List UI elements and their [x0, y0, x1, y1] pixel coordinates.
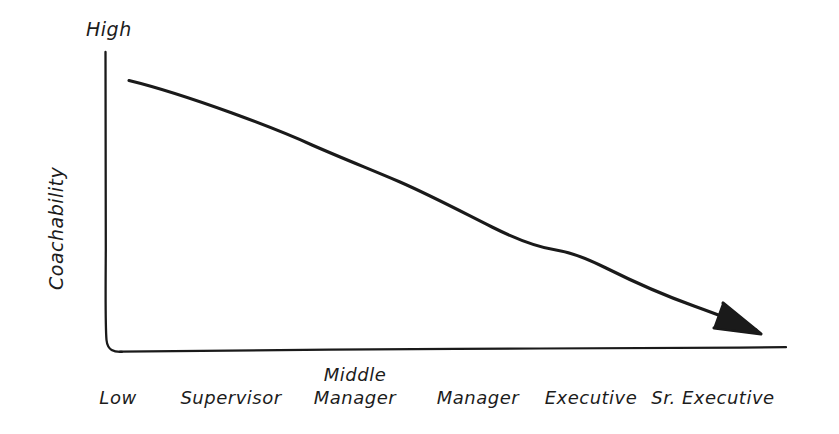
x-label-low-line1: Low — [99, 387, 136, 408]
x-label-middle-manager-line1: Middle — [324, 364, 386, 385]
x-label-low: Low — [99, 386, 136, 409]
trend-arrowhead-fill — [714, 303, 761, 334]
chart-sketch-canvas — [0, 0, 839, 434]
coachability-chart: High Coachability Low Supervisor Middle … — [0, 0, 839, 434]
x-label-middle-manager-line2: Manager — [314, 386, 396, 409]
x-label-executive: Executive — [545, 386, 638, 409]
coachability-trend-line — [129, 81, 756, 331]
y-axis-title: Coachability — [45, 167, 67, 290]
x-label-executive-line1: Executive — [545, 387, 638, 408]
y-axis-high-label: High — [86, 18, 132, 40]
x-label-manager-line1: Manager — [437, 387, 519, 408]
x-label-supervisor: Supervisor — [180, 386, 281, 409]
x-label-middle-manager: Middle Manager — [314, 363, 396, 409]
x-label-supervisor-line1: Supervisor — [180, 387, 281, 408]
x-axis-line — [120, 347, 786, 351]
x-label-sr-executive-line1: Sr. Executive — [651, 387, 774, 408]
x-label-sr-executive: Sr. Executive — [651, 386, 774, 409]
x-label-manager: Manager — [437, 386, 519, 409]
y-axis-line — [105, 52, 122, 352]
